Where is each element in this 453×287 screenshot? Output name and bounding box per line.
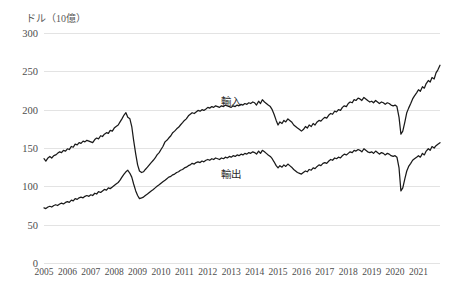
x-axis-tick-label: 2016 — [292, 267, 311, 277]
x-axis-tick-label: 2010 — [152, 267, 171, 277]
x-axis-tick-label: 2018 — [339, 267, 358, 277]
y-axis-tick-label: 300 — [22, 28, 38, 39]
x-axis-tick-label: 2007 — [81, 267, 100, 277]
x-axis-tick-label: 2005 — [35, 267, 54, 277]
x-axis-tick-label: 2011 — [175, 267, 194, 277]
gridline — [44, 263, 440, 264]
plot-area: 0501001502002503002005200620072008200920… — [44, 33, 440, 263]
x-axis-tick-label: 2009 — [128, 267, 147, 277]
series-label: 輸出 — [221, 165, 241, 180]
series-label: 輸入 — [221, 92, 241, 107]
x-axis-tick-label: 2014 — [245, 267, 264, 277]
y-axis-tick-label: 200 — [22, 104, 38, 115]
x-axis-tick-label: 2012 — [198, 267, 217, 277]
chart-page: ドル（10億） 05010015020025030020052006200720… — [0, 0, 453, 287]
x-axis-tick-label: 2008 — [105, 267, 124, 277]
x-axis-tick-label: 2020 — [386, 267, 405, 277]
x-axis-tick-label: 2013 — [222, 267, 241, 277]
x-axis-tick-label: 2021 — [409, 267, 428, 277]
x-axis-tick-label: 2015 — [269, 267, 288, 277]
x-axis-tick-label: 2006 — [58, 267, 77, 277]
y-axis-tick-label: 100 — [22, 181, 38, 192]
y-axis-tick-label: 150 — [22, 143, 38, 154]
x-axis-tick-label: 2017 — [315, 267, 334, 277]
series-line — [44, 143, 440, 209]
series-line — [44, 65, 440, 172]
y-axis-unit-label: ドル（10億） — [26, 10, 86, 25]
series-lines — [44, 33, 440, 263]
y-axis-tick-label: 50 — [28, 219, 39, 230]
y-axis-tick-label: 250 — [22, 66, 38, 77]
x-axis-tick-label: 2019 — [362, 267, 381, 277]
